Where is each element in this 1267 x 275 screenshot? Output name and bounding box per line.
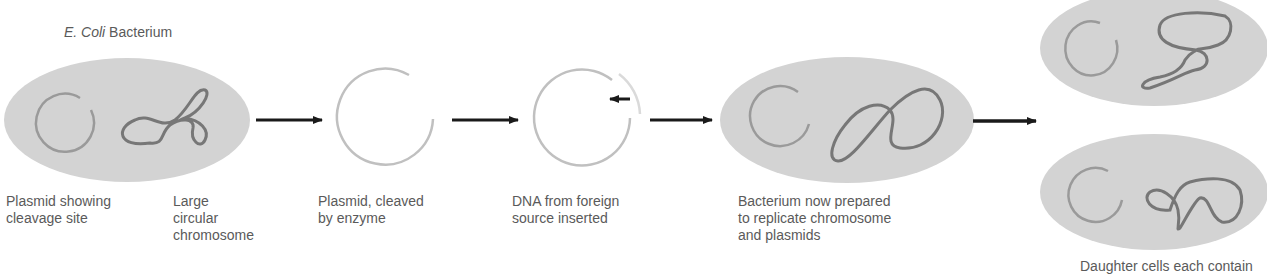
ecoli-cell <box>4 58 250 182</box>
label-daughter-cells: Daughter cells each contain <box>1080 258 1253 275</box>
foreign-dna-segment <box>619 74 640 114</box>
daughter-cell-bottom <box>1040 134 1267 250</box>
title-italic: E. Coli <box>64 24 105 40</box>
label-large-circular-chromosome: Large circular chromosome <box>173 193 254 244</box>
title-rest: Bacterium <box>105 24 172 40</box>
label-prepared-bacterium: Bacterium now prepared to replicate chro… <box>738 193 891 244</box>
plasmid-with-insert <box>534 69 640 165</box>
label-foreign-dna: DNA from foreign source inserted <box>512 193 619 227</box>
label-plasmid-cleavage-site: Plasmid showing cleavage site <box>6 193 111 227</box>
diagram-title: E. Coli Bacterium <box>64 24 172 40</box>
daughter-cell-top <box>1040 0 1267 106</box>
prepared-bacterium-cell <box>720 57 974 183</box>
cleaved-plasmid <box>337 69 433 165</box>
label-cleaved-plasmid: Plasmid, cleaved by enzyme <box>318 193 424 227</box>
